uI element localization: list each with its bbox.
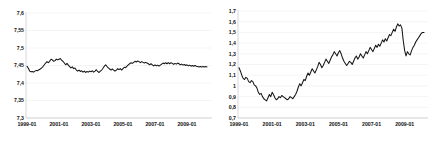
y-tick-label: 1,2 bbox=[229, 61, 236, 67]
left-chart-svg: 7,37,357,47,457,57,557,6 1999-012001-012… bbox=[0, 0, 216, 142]
chart-panel-right: 0,70,80,911,11,21,31,41,51,61,7 1999-012… bbox=[216, 0, 432, 142]
chart-panel-left: 7,37,357,47,457,57,557,6 1999-012001-012… bbox=[0, 0, 216, 142]
y-tick-label: 0,8 bbox=[229, 104, 236, 110]
y-tick-label: 7,5 bbox=[17, 45, 24, 51]
right-chart-svg: 0,70,80,911,11,21,31,41,51,61,7 1999-012… bbox=[216, 0, 432, 142]
y-tick-label: 1,4 bbox=[229, 40, 236, 46]
y-tick-label: 1,3 bbox=[229, 51, 236, 57]
left-y-tick-labels: 7,37,357,47,457,57,557,6 bbox=[14, 10, 24, 121]
y-tick-label: 7,4 bbox=[17, 80, 24, 86]
left-x-tick-labels: 1999-012001-012003-012005-012007-012009-… bbox=[17, 121, 196, 127]
y-tick-label: 1 bbox=[233, 83, 236, 89]
x-tick-label: 1999-01 bbox=[229, 121, 248, 127]
x-tick-label: 2003-01 bbox=[296, 121, 315, 127]
right-series-line bbox=[239, 24, 424, 101]
right-y-tick-labels: 0,70,80,911,11,21,31,41,51,61,7 bbox=[229, 8, 236, 121]
x-tick-label: 2005-01 bbox=[113, 121, 132, 127]
x-tick-label: 2009-01 bbox=[395, 121, 414, 127]
y-tick-label: 7,45 bbox=[14, 62, 24, 68]
x-tick-label: 2003-01 bbox=[81, 121, 100, 127]
y-tick-label: 0,7 bbox=[229, 115, 236, 121]
right-x-tick-labels: 1999-012001-012003-012005-012007-012009-… bbox=[229, 121, 414, 127]
y-tick-label: 1,7 bbox=[229, 8, 236, 14]
x-tick-label: 1999-01 bbox=[17, 121, 36, 127]
y-tick-label: 7,6 bbox=[17, 10, 24, 16]
y-tick-label: 7,35 bbox=[14, 97, 24, 103]
x-tick-label: 2009-01 bbox=[177, 121, 196, 127]
y-tick-label: 0,9 bbox=[229, 94, 236, 100]
x-tick-label: 2007-01 bbox=[362, 121, 381, 127]
y-tick-label: 1,6 bbox=[229, 19, 236, 25]
y-tick-label: 7,3 bbox=[17, 115, 24, 121]
dual-line-chart-figure: 7,37,357,47,457,57,557,6 1999-012001-012… bbox=[0, 0, 432, 142]
y-tick-label: 7,55 bbox=[14, 27, 24, 33]
x-tick-label: 2001-01 bbox=[263, 121, 282, 127]
x-tick-label: 2007-01 bbox=[145, 121, 164, 127]
x-tick-label: 2001-01 bbox=[49, 121, 68, 127]
y-tick-label: 1,5 bbox=[229, 29, 236, 35]
x-tick-label: 2005-01 bbox=[329, 121, 348, 127]
right-grid-lines bbox=[239, 11, 428, 118]
y-tick-label: 1,1 bbox=[229, 72, 236, 78]
